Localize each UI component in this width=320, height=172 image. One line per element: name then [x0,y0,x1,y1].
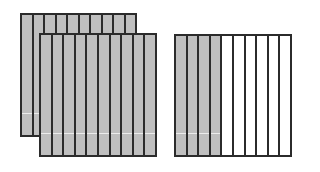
unshaded-part [280,36,290,155]
unshaded-part [222,36,234,155]
scan-line [269,133,279,134]
unshaded-part [246,36,258,155]
shaded-part [41,35,53,155]
shaded-part [22,15,34,135]
scan-line [176,133,186,134]
shaded-part [176,36,188,155]
scan-line [199,133,209,134]
scan-line [111,133,121,134]
unshaded-part [257,36,269,155]
front-whole-bar [39,33,157,157]
scan-line [188,133,198,134]
shaded-part [99,35,111,155]
scan-line [145,133,155,134]
shaded-part [87,35,99,155]
shaded-part [145,35,155,155]
scan-line [134,133,144,134]
scan-line [234,133,244,134]
shaded-part [64,35,76,155]
shaded-part [211,36,223,155]
shaded-part [188,36,200,155]
scan-line [22,113,32,114]
shaded-part [111,35,123,155]
shaded-part [76,35,88,155]
scan-line [211,133,221,134]
scan-line [122,133,132,134]
scan-line [53,133,63,134]
scan-line [64,133,74,134]
scan-line [87,133,97,134]
shaded-part [53,35,65,155]
unshaded-part [234,36,246,155]
shaded-part [122,35,134,155]
scan-line [76,133,86,134]
scan-line [257,133,267,134]
scan-line [41,133,51,134]
scan-line [246,133,256,134]
scan-line [222,133,232,134]
shaded-part [134,35,146,155]
scan-line [280,133,290,134]
scan-line [99,133,109,134]
unshaded-part [269,36,281,155]
shaded-part [199,36,211,155]
partial-bar [174,34,292,157]
